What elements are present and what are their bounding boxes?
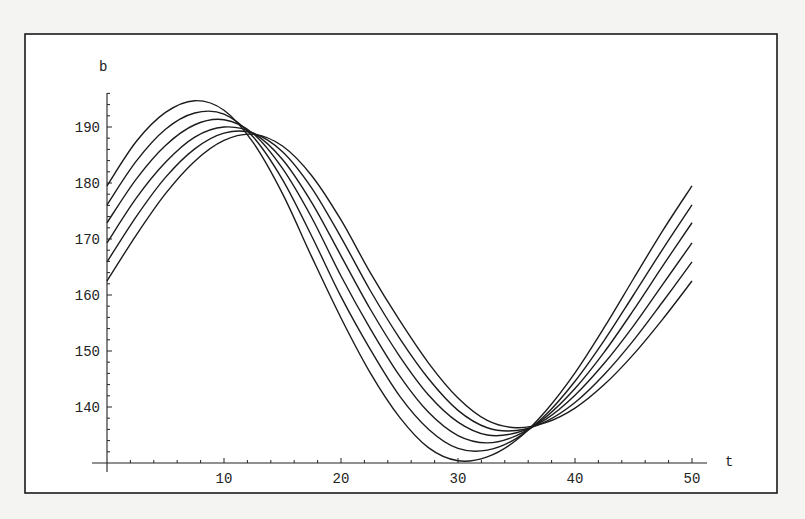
x-tick-label: 40 [567,471,584,487]
y-tick-label: 170 [75,232,100,248]
y-tick-label: 150 [75,344,100,360]
y-tick-label: 190 [75,120,100,136]
y-tick-label: 180 [75,176,100,192]
x-tick-label: 10 [216,471,233,487]
chart: 1020304050 140150160170180190 t b [0,0,805,519]
y-tick-label: 140 [75,400,100,416]
x-tick-label: 50 [684,471,701,487]
x-axis-label: t [725,454,733,470]
y-axis-label: b [99,59,107,75]
x-tick-label: 30 [450,471,467,487]
y-tick-label: 160 [75,288,100,304]
x-tick-label: 20 [333,471,350,487]
